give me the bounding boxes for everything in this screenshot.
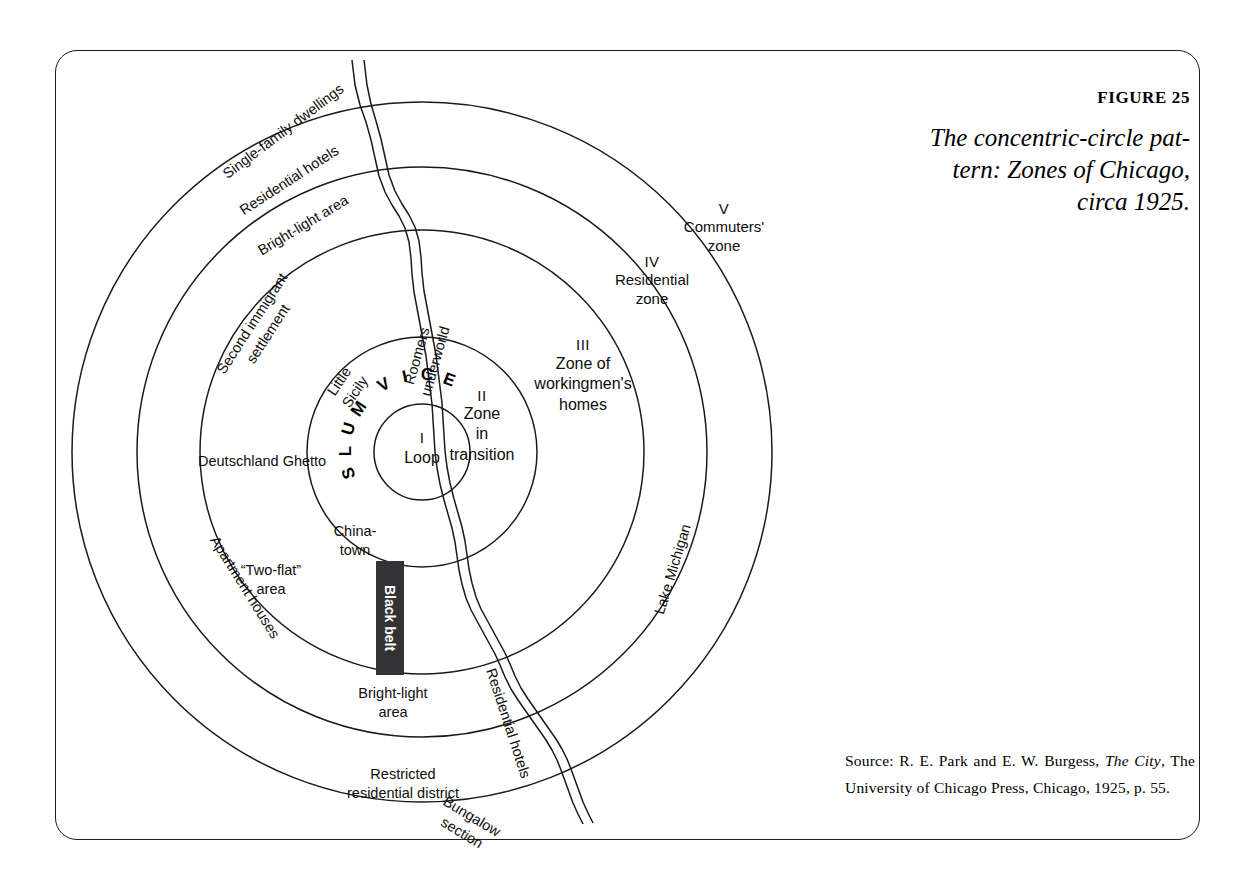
arc-letter-l: L: [336, 442, 356, 460]
zone-label-iv-name: Residential zone: [598, 270, 706, 308]
figure-title: The concentric-circle pat- tern: Zones o…: [845, 122, 1190, 218]
source-title-part-1: The: [1105, 752, 1129, 769]
black-belt-bar: Black belt: [376, 561, 404, 675]
zone-label-iii-roman: III: [528, 335, 638, 354]
source-citation: Source: R. E. Park and E. W. Burgess, Th…: [845, 748, 1195, 801]
figure-number: FIGURE 25: [845, 88, 1190, 108]
label-chinatown: China- town: [324, 522, 386, 559]
zone-label-v-roman: V: [676, 199, 772, 218]
source-title-part-2: City: [1134, 752, 1161, 769]
label-bright-light-area-bottom: Bright-light area: [355, 684, 431, 721]
figure-caption: FIGURE 25 The concentric-circle pat- ter…: [845, 88, 1190, 218]
source-prefix: Source: R. E. Park and E. W. Burgess,: [845, 752, 1105, 769]
zone-label-ii-name: Zone in transition: [440, 404, 524, 465]
arc-letter-c: C: [418, 365, 437, 386]
zone-label-v-name: Commuters' zone: [670, 217, 778, 255]
figure-title-line-2: tern: Zones of Chicago,: [845, 154, 1190, 186]
label-deutschland-ghetto: Deutschland Ghetto: [198, 452, 326, 471]
figure-title-line-1: The concentric-circle pat-: [845, 122, 1190, 154]
label-black-belt: Black belt: [382, 585, 398, 651]
zone-label-iii-name: Zone of workingmen's homes: [521, 354, 645, 415]
figure-title-line-3: circa 1925.: [845, 186, 1190, 218]
zone-label-ii-roman: II: [455, 386, 509, 405]
